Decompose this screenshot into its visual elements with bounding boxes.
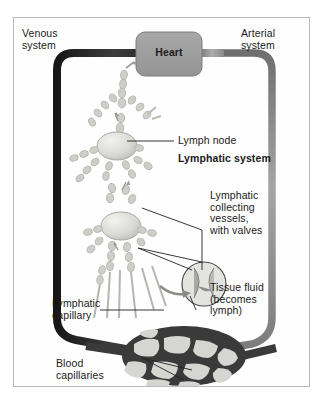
label-arterial-system: Arterial system	[241, 28, 275, 51]
label-venous-system: Venous system	[22, 28, 58, 51]
lymph-node-lower	[101, 212, 141, 240]
magnify-leader	[138, 208, 202, 270]
label-lymphatic-system: Lymphatic system	[178, 153, 271, 165]
label-lymphatic-capillary: Lymphatic capillary	[52, 298, 100, 321]
label-blood-capillaries: Blood capillaries	[56, 358, 104, 381]
label-heart: Heart	[150, 47, 188, 59]
figure-frame: Venous system Arterial system Heart Lymp…	[13, 17, 310, 387]
label-tissue-fluid: Tissue fluid (becomes lymph)	[210, 282, 264, 317]
diagram-canvas	[14, 18, 309, 386]
label-collecting-vessels: Lymphatic collecting vessels, with valve…	[210, 190, 262, 236]
lymph-node-upper	[97, 132, 137, 160]
blood-capillary-bed	[86, 326, 276, 386]
label-lymph-node: Lymph node	[178, 135, 236, 147]
lymphatic-vessel-tree	[69, 61, 166, 318]
